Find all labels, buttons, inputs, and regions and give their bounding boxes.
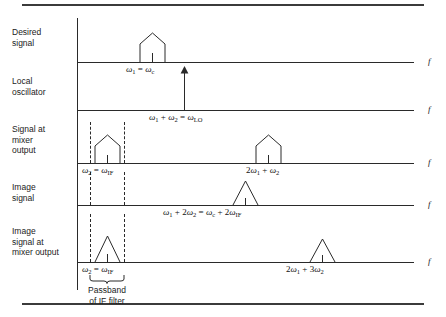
- axis-label-f-desired-signal: f: [428, 56, 431, 66]
- row-label-image-signal: Imagesignal: [12, 182, 76, 203]
- arrow-local-oscillator: [178, 66, 191, 111]
- axis-signal-at-mixer-output: [77, 163, 414, 164]
- figure-top-rule: [22, 4, 424, 6]
- annotation-mixer-output-sum: 2ω1 + ω2: [246, 165, 279, 175]
- figure-container: Desiredsignal Localoscillator Signal atm…: [0, 0, 446, 317]
- triangle-tick-image-mixer-if: [107, 254, 108, 262]
- annotation-mixer-output-if: ω2 = ωIF: [82, 165, 113, 175]
- axis-label-f-image-signal-at-mixer-output: f: [428, 256, 431, 266]
- passband-dash-left-image-row: [90, 172, 91, 205]
- axis-desired-signal: [77, 62, 414, 63]
- passband-dash-right-image-row: [124, 172, 125, 205]
- pulse-tick-mixer-output-sum: [268, 155, 269, 163]
- annotation-local-oscillator: ω1 + ω2 = ωLO: [149, 112, 202, 122]
- pulse-tick-desired-signal: [152, 53, 153, 62]
- axis-label-f-image-signal: f: [428, 199, 431, 209]
- axis-local-oscillator: [77, 110, 414, 111]
- annotation-image-mixer-if: ω2 = ωIF: [82, 264, 113, 274]
- annotation-image-mixer-sum: 2ω1 + 3ω2: [286, 264, 324, 274]
- annotation-image-signal: ω1 + 2ω2 = ωc + 2ωIF: [163, 207, 241, 217]
- passband-dash-left-image-mixer-row: [90, 214, 91, 262]
- row-label-image-signal-at-mixer-output: Imagesignal atmixer output: [12, 226, 76, 258]
- axis-label-f-signal-at-mixer-output: f: [428, 157, 431, 167]
- row-label-signal-at-mixer-output: Signal atmixeroutput: [12, 124, 76, 156]
- axis-label-f-local-oscillator: f: [428, 104, 431, 114]
- vertical-axis: [77, 18, 78, 290]
- row-label-local-oscillator: Localoscillator: [12, 76, 76, 97]
- pulse-tick-mixer-output-if: [107, 155, 108, 163]
- passband-caption: Passbandof IF filter: [57, 285, 157, 306]
- triangle-tick-image-mixer-sum: [322, 255, 323, 262]
- annotation-desired-signal: ω1 = ωc: [126, 64, 154, 74]
- passband-brace: [88, 275, 127, 284]
- passband-dash-right-image-mixer-row: [124, 214, 125, 262]
- passband-dash-right-mixer-row: [124, 122, 125, 163]
- row-label-desired-signal: Desiredsignal: [12, 27, 76, 48]
- passband-dash-left-mixer-row: [90, 122, 91, 163]
- triangle-tick-image-signal: [245, 198, 246, 205]
- axis-image-signal-at-mixer-output: [77, 262, 414, 263]
